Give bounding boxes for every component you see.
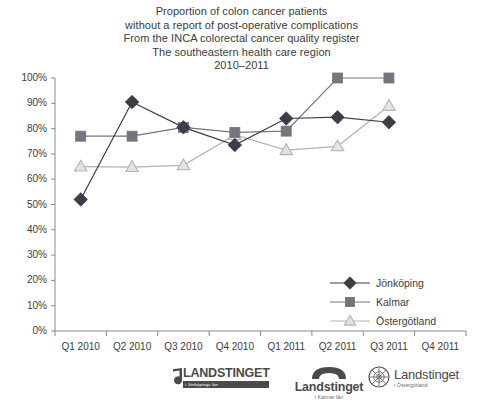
logo-jonkoping-main: LANDSTINGET bbox=[183, 366, 270, 380]
legend-label: Jönköping bbox=[376, 277, 424, 289]
footer-logos: LANDSTINGET i Jönköpings län Landstinget… bbox=[0, 366, 483, 409]
y-axis-tick-label: 10% bbox=[13, 300, 47, 311]
y-axis-tick-label: 90% bbox=[13, 97, 47, 108]
legend-marker-diamond-icon bbox=[328, 275, 372, 291]
y-axis-tick-label: 30% bbox=[13, 249, 47, 260]
legend-item-jönköping[interactable]: Jönköping bbox=[328, 275, 473, 294]
legend-marker-triangle-icon bbox=[328, 313, 372, 329]
y-axis-tick-label: 0% bbox=[13, 325, 47, 336]
title-line-3: From the INCA colorectal cancer quality … bbox=[0, 32, 483, 46]
legend-label: Östergötland bbox=[376, 315, 436, 327]
ostergotland-rosette-icon bbox=[368, 366, 390, 388]
logo-kalmar-sub: i Kalmar län bbox=[293, 394, 365, 400]
logo-ostergotland-sub: i Östergötland bbox=[394, 382, 459, 388]
y-axis-tick-label: 60% bbox=[13, 173, 47, 184]
x-axis-tick-label: Q4 2011 bbox=[410, 341, 470, 352]
y-axis-tick-label: 80% bbox=[13, 123, 47, 134]
title-line-4: The southeastern health care region bbox=[0, 46, 483, 60]
logo-landstinget-kalmar-lan: Landstinget i Kalmar län bbox=[293, 366, 365, 400]
y-axis-tick-label: 50% bbox=[13, 199, 47, 210]
legend-label: Kalmar bbox=[376, 296, 409, 308]
chart-legend: JönköpingKalmarÖstergötland bbox=[328, 275, 473, 332]
chart-page: Proportion of colon cancer patients with… bbox=[0, 0, 483, 409]
y-axis-tick-label: 40% bbox=[13, 224, 47, 235]
title-line-2: without a report of post-operative compl… bbox=[0, 19, 483, 33]
kalmar-logo-icon bbox=[309, 366, 349, 379]
y-axis-tick-label: 20% bbox=[13, 274, 47, 285]
chart-plot-area: 0%10%20%30%40%50%60%70%80%90%100% Q1 201… bbox=[0, 66, 483, 366]
legend-item-kalmar[interactable]: Kalmar bbox=[328, 294, 473, 313]
chart-title: Proportion of colon cancer patients with… bbox=[0, 5, 483, 73]
y-axis-tick-label: 70% bbox=[13, 148, 47, 159]
legend-item-östergötland[interactable]: Östergötland bbox=[328, 313, 473, 332]
logo-jonkoping-sub: i Jönköpings län bbox=[185, 382, 218, 387]
title-line-1: Proportion of colon cancer patients bbox=[0, 5, 483, 19]
y-axis-tick-label: 100% bbox=[13, 72, 47, 83]
chart-series bbox=[74, 73, 396, 206]
logo-landstinget-jonkopings-lan: LANDSTINGET i Jönköpings län bbox=[183, 366, 270, 388]
logo-ostergotland-main: Landstinget bbox=[394, 367, 459, 382]
legend-marker-square-icon bbox=[328, 294, 372, 310]
logo-jonkoping-subbar: i Jönköpings län bbox=[183, 381, 269, 388]
logo-kalmar-main: Landstinget bbox=[293, 380, 365, 394]
logo-landstinget-ostergotland: Landstinget i Östergötland bbox=[368, 366, 459, 388]
